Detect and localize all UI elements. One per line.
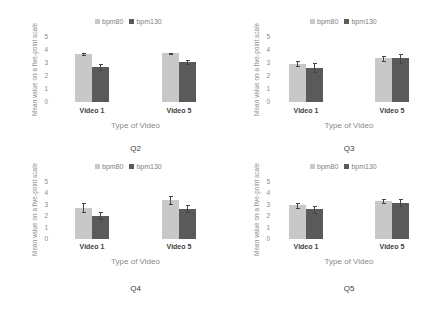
y-tick-label: 5 xyxy=(38,33,48,40)
y-tick-label: 4 xyxy=(260,189,270,196)
bar-bpm80-video-1 xyxy=(289,205,306,239)
error-cap xyxy=(186,60,190,61)
error-cap xyxy=(296,61,300,62)
bar-bpm80-video-1 xyxy=(289,64,306,102)
legend-swatch-icon xyxy=(344,19,349,24)
error-bar xyxy=(400,199,401,206)
error-bar xyxy=(100,212,101,219)
legend-label: bpm130 xyxy=(351,18,376,25)
y-axis-label: Mean value on a five-point scale xyxy=(253,23,260,116)
y-tick-label: 1 xyxy=(260,224,270,231)
error-cap xyxy=(313,213,317,214)
legend-item: bpm130 xyxy=(344,18,376,25)
bar-bpm80-video-5 xyxy=(375,58,392,102)
y-axis-label: Mean value on a five-point scale xyxy=(31,23,38,116)
y-tick-label: 1 xyxy=(38,224,48,231)
error-cap xyxy=(382,56,386,57)
y-axis-label: Mean value on a five-point scale xyxy=(253,163,260,256)
chart-panel-q3: bpm80bpm130Mean value on a five-point sc… xyxy=(222,0,443,156)
x-category-label: Video 5 xyxy=(367,243,417,250)
legend-label: bpm80 xyxy=(317,18,338,25)
y-tick-label: 2 xyxy=(38,72,48,79)
bar-bpm130-video-5 xyxy=(392,203,409,239)
legend-swatch-icon xyxy=(95,164,100,169)
legend-item: bpm130 xyxy=(344,163,376,170)
bar-bpm80-video-5 xyxy=(162,53,179,102)
y-tick-label: 2 xyxy=(260,72,270,79)
error-cap xyxy=(313,206,317,207)
chart-title: Q2 xyxy=(121,144,151,153)
y-tick-label: 2 xyxy=(260,212,270,219)
x-category-label: Video 1 xyxy=(281,107,331,114)
y-tick-label: 3 xyxy=(38,201,48,208)
chart-panel-q2: bpm80bpm130Mean value on a five-point sc… xyxy=(0,0,221,156)
bar-bpm130-video-5 xyxy=(179,209,196,239)
error-cap xyxy=(186,64,190,65)
error-bar xyxy=(187,205,188,212)
legend-label: bpm130 xyxy=(136,18,161,25)
legend: bpm80bpm130 xyxy=(310,163,383,170)
error-cap xyxy=(99,212,103,213)
bar-bpm130-video-5 xyxy=(179,62,196,102)
y-tick-label: 2 xyxy=(38,212,48,219)
x-category-label: Video 1 xyxy=(67,243,117,250)
legend-item: bpm80 xyxy=(95,163,123,170)
error-cap xyxy=(399,63,403,64)
legend: bpm80bpm130 xyxy=(95,163,168,170)
legend-label: bpm130 xyxy=(136,163,161,170)
x-category-label: Video 1 xyxy=(281,243,331,250)
x-category-label: Video 5 xyxy=(154,107,204,114)
legend-label: bpm80 xyxy=(102,18,123,25)
x-axis-label: Type of Video xyxy=(299,121,399,130)
bar-bpm130-video-1 xyxy=(92,67,109,102)
x-axis-label: Type of Video xyxy=(86,121,186,130)
error-cap xyxy=(169,204,173,205)
legend-label: bpm130 xyxy=(351,163,376,170)
legend-item: bpm80 xyxy=(95,18,123,25)
error-cap xyxy=(399,199,403,200)
error-cap xyxy=(82,203,86,204)
chart-panel-q5: bpm80bpm130Mean value on a five-point sc… xyxy=(222,156,443,312)
error-cap xyxy=(82,212,86,213)
bar-bpm130-video-5 xyxy=(392,58,409,102)
error-cap xyxy=(382,61,386,62)
error-cap xyxy=(313,63,317,64)
error-cap xyxy=(169,196,173,197)
error-bar xyxy=(400,54,401,63)
y-tick-label: 3 xyxy=(38,59,48,66)
x-category-label: Video 5 xyxy=(367,107,417,114)
legend-swatch-icon xyxy=(310,19,315,24)
chart-title: Q5 xyxy=(334,284,364,293)
error-cap xyxy=(99,64,103,65)
bar-bpm80-video-5 xyxy=(162,200,179,239)
y-tick-label: 4 xyxy=(260,46,270,53)
y-tick-label: 0 xyxy=(260,98,270,105)
error-cap xyxy=(296,208,300,209)
error-cap xyxy=(313,72,317,73)
y-tick-label: 0 xyxy=(260,235,270,242)
error-bar xyxy=(170,196,171,204)
bar-bpm130-video-1 xyxy=(306,209,323,239)
legend: bpm80bpm130 xyxy=(95,18,168,25)
error-cap xyxy=(399,206,403,207)
legend: bpm80bpm130 xyxy=(310,18,383,25)
y-tick-label: 0 xyxy=(38,235,48,242)
x-axis-label: Type of Video xyxy=(299,257,399,266)
y-tick-label: 5 xyxy=(260,33,270,40)
legend-swatch-icon xyxy=(310,164,315,169)
chart-panel-q4: bpm80bpm130Mean value on a five-point sc… xyxy=(0,156,221,312)
y-tick-label: 5 xyxy=(260,178,270,185)
error-cap xyxy=(399,54,403,55)
y-tick-label: 0 xyxy=(38,98,48,105)
chart-title: Q3 xyxy=(334,144,364,153)
error-bar xyxy=(314,206,315,213)
error-bar xyxy=(314,63,315,72)
bar-bpm80-video-1 xyxy=(75,54,92,102)
legend-item: bpm80 xyxy=(310,163,338,170)
error-cap xyxy=(296,66,300,67)
error-cap xyxy=(169,54,173,55)
legend-swatch-icon xyxy=(129,164,134,169)
legend-label: bpm80 xyxy=(317,163,338,170)
legend-item: bpm80 xyxy=(310,18,338,25)
legend-label: bpm80 xyxy=(102,163,123,170)
